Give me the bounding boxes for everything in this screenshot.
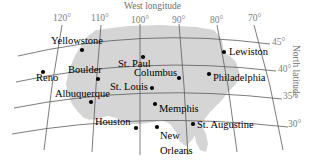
lon-tick-110: 110° — [91, 14, 109, 24]
city-label-columbus: Columbus — [134, 68, 177, 79]
city-label-houston: Houston — [95, 117, 131, 128]
city-label-new-orleans-1: New — [160, 131, 180, 142]
city-dot-st-louis — [150, 86, 154, 90]
city-label-albuquerque: Albuquerque — [55, 89, 110, 100]
city-dot-albuquerque — [89, 100, 93, 104]
city-dot-st-augustine — [191, 122, 195, 126]
city-dot-new-orleans — [155, 125, 159, 129]
lat-tick-40: 40° — [278, 65, 291, 75]
lon-tick-70: 70° — [248, 14, 261, 24]
city-label-new-orleans-2: Orleans — [160, 146, 193, 157]
city-label-boulder: Boulder — [68, 65, 102, 76]
city-dot-philadelphia — [207, 72, 211, 76]
city-label-st-louis: St. Louis — [110, 82, 148, 93]
city-dot-lewiston — [222, 50, 226, 54]
lat-tick-30: 30° — [288, 120, 301, 130]
city-dot-memphis — [153, 102, 157, 106]
city-label-yellowstone: Yellowstone — [51, 36, 103, 47]
lon-tick-120: 120° — [53, 14, 71, 24]
city-dot-yellowstone — [80, 48, 84, 52]
lat-tick-35: 35° — [283, 92, 296, 102]
axis-title-longitude: West longitude — [124, 2, 181, 12]
city-label-st-augustine: St. Augustine — [197, 120, 254, 131]
city-label-philadelphia: Philadelphia — [213, 73, 266, 84]
city-dot-boulder — [96, 77, 100, 81]
lon-tick-90: 90° — [172, 16, 185, 26]
city-label-reno: Reno — [36, 73, 58, 84]
city-dot-columbus — [177, 76, 181, 80]
lon-tick-80: 80° — [210, 16, 223, 26]
city-label-memphis: Memphis — [159, 104, 199, 115]
city-dot-houston — [134, 126, 138, 130]
city-label-lewiston: Lewiston — [229, 47, 268, 58]
map-figure: West longitude North latitude 120° 110° … — [0, 0, 310, 162]
lon-tick-100: 100° — [131, 16, 149, 26]
lat-tick-45: 45° — [272, 38, 285, 48]
